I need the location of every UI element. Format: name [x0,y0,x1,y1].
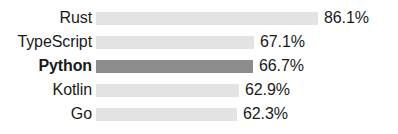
bar-area-kotlin: 62.9% [96,78,398,102]
bar-go [96,108,237,121]
category-label-typescript: TypeScript [0,33,96,51]
bar-area-go: 62.3% [96,102,398,126]
chart-row-kotlin: Kotlin 62.9% [0,78,398,102]
bar-area-typescript: 67.1% [96,30,398,54]
category-label-rust: Rust [0,9,96,27]
value-label-go: 62.3% [237,105,288,123]
value-label-kotlin: 62.9% [239,81,290,99]
bar-typescript [96,36,254,49]
chart-row-rust: Rust 86.1% [0,6,398,30]
value-label-rust: 86.1% [318,9,369,27]
category-label-go: Go [0,105,96,123]
category-label-kotlin: Kotlin [0,81,96,99]
value-label-typescript: 67.1% [254,33,305,51]
chart-row-python: Python 66.7% [0,54,398,78]
chart-row-typescript: TypeScript 67.1% [0,30,398,54]
bar-area-python: 66.7% [96,54,398,78]
category-label-python: Python [0,57,96,75]
chart-row-go: Go 62.3% [0,102,398,126]
horizontal-bar-chart: Rust 86.1% TypeScript 67.1% Python 66.7%… [0,0,398,134]
value-label-python: 66.7% [253,57,304,75]
bar-python [96,60,253,73]
bar-area-rust: 86.1% [96,6,398,30]
bar-kotlin [96,84,239,97]
bar-rust [96,12,318,25]
